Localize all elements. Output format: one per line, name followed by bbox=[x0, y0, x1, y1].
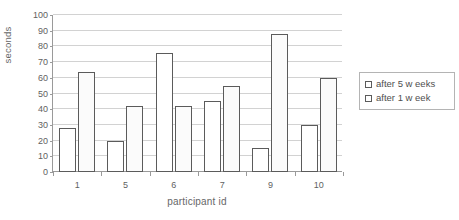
x-tick-mark bbox=[53, 172, 54, 176]
y-tick-label: 30 bbox=[14, 120, 48, 129]
x-tick-label: 1 bbox=[57, 180, 97, 190]
bar bbox=[156, 53, 173, 172]
bar bbox=[175, 106, 192, 172]
legend-item-label: after 5 w eeks bbox=[376, 79, 435, 89]
x-tick-mark bbox=[246, 172, 247, 176]
x-axis-title: participant id bbox=[52, 196, 342, 207]
bar bbox=[301, 125, 318, 172]
bar bbox=[126, 106, 143, 172]
bar bbox=[59, 128, 76, 172]
y-tick-label: 100 bbox=[14, 11, 48, 20]
y-tick-label: 90 bbox=[14, 26, 48, 35]
x-tick-mark bbox=[101, 172, 102, 176]
bar-group bbox=[101, 15, 149, 172]
x-tick-label: 9 bbox=[251, 180, 291, 190]
bar bbox=[252, 148, 269, 172]
bar-group bbox=[53, 15, 101, 172]
bars-layer bbox=[53, 15, 342, 172]
legend-swatch-icon bbox=[365, 95, 372, 102]
y-tick-label: 40 bbox=[14, 105, 48, 114]
legend-swatch-icon bbox=[365, 81, 372, 88]
x-tick-mark bbox=[150, 172, 151, 176]
bar-group bbox=[198, 15, 246, 172]
plot-area: 0102030405060708090100 1567910 bbox=[52, 15, 342, 172]
x-tick-label: 5 bbox=[106, 180, 146, 190]
y-tick-label: 80 bbox=[14, 42, 48, 51]
bar bbox=[78, 72, 95, 172]
y-tick-label: 50 bbox=[14, 89, 48, 98]
legend-item: after 1 w eek bbox=[365, 91, 450, 105]
x-tick-label: 10 bbox=[299, 180, 339, 190]
legend-item: after 5 w eeks bbox=[365, 77, 450, 91]
bar bbox=[204, 101, 221, 172]
y-tick-label: 0 bbox=[14, 168, 48, 177]
bar bbox=[271, 34, 288, 172]
y-tick-label: 70 bbox=[14, 58, 48, 67]
x-tick-mark bbox=[295, 172, 296, 176]
bar-group bbox=[150, 15, 198, 172]
y-tick-label: 10 bbox=[14, 152, 48, 161]
x-tick-mark bbox=[198, 172, 199, 176]
legend: after 5 w eeks after 1 w eek bbox=[359, 72, 455, 110]
x-tick-mark bbox=[343, 172, 344, 176]
bar bbox=[223, 86, 240, 172]
y-tick-label: 20 bbox=[14, 136, 48, 145]
bar-chart: seconds 0102030405060708090100 1567910 p… bbox=[0, 0, 459, 220]
bar-group bbox=[246, 15, 294, 172]
bar bbox=[320, 78, 337, 172]
bar bbox=[107, 141, 124, 172]
x-tick-label: 6 bbox=[154, 180, 194, 190]
bar-group bbox=[295, 15, 343, 172]
legend-item-label: after 1 w eek bbox=[376, 93, 430, 103]
y-tick-label: 60 bbox=[14, 73, 48, 82]
x-tick-label: 7 bbox=[202, 180, 242, 190]
